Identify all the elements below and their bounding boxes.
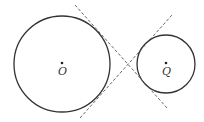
tangent-circles-diagram: O Q [0,0,204,122]
diagram-canvas: O Q [0,0,204,122]
label-q: Q [162,65,171,78]
tangent-line-2 [80,15,172,118]
center-dot-o [61,62,64,65]
tangent-line-1 [75,5,167,108]
center-dot-q [165,62,168,65]
label-o: O [58,65,67,78]
